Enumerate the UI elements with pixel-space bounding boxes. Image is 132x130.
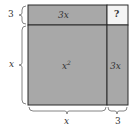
bottom-label-3: 3 [115,117,121,126]
region-label-unknown: ? [114,10,119,19]
left-label-3: 3 [8,10,14,19]
region-label-bottom-right: 3x [110,62,121,71]
region-label-x-squared: x2 [62,60,71,71]
region-label-top-left: 3x [58,11,69,20]
left-label-x: x [9,60,14,69]
bottom-label-x: x [64,117,69,126]
